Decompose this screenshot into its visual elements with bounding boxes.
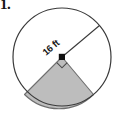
geometry-figure: 1. 16 ft <box>0 0 122 115</box>
circle-sector-diagram: 16 ft <box>0 0 122 115</box>
center-point-dot <box>59 54 65 60</box>
radius-line <box>62 26 100 58</box>
